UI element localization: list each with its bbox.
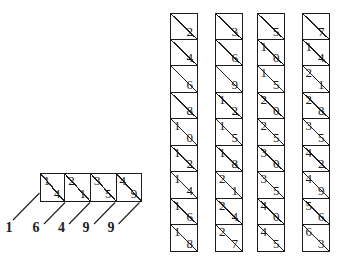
units-digit: 8 (187, 237, 194, 251)
units-digit: 8 (232, 157, 239, 171)
tens-digit: 1 (261, 66, 268, 79)
units-digit: 5 (273, 131, 280, 145)
units-digit: 4 (318, 51, 325, 65)
rod-cell: 6 (215, 40, 243, 67)
units-digit: 2 (187, 157, 194, 171)
tens-digit: 1 (219, 93, 226, 106)
rod-cell: 8 (170, 93, 198, 120)
tens-digit: 4 (306, 146, 313, 159)
rod-cell: 15 (215, 119, 243, 146)
rod-cell: 35 (302, 119, 330, 146)
units-digit: 2 (187, 25, 194, 39)
units-digit: 0 (273, 104, 280, 118)
tens-digit: 2 (219, 225, 226, 238)
tens-digit: 3 (261, 146, 268, 159)
units-digit: 0 (273, 51, 280, 65)
figure-canvas: 14213549 16499 2468101214161836912151821… (0, 0, 342, 263)
units-digit: 1 (318, 78, 325, 92)
units-digit: 2 (232, 104, 239, 118)
napier-rod: 71421283542495663 (302, 13, 330, 252)
tens-digit: 1 (219, 146, 226, 159)
tens-digit: 2 (306, 93, 313, 106)
units-digit: 0 (273, 210, 280, 224)
tens-digit: 1 (174, 146, 181, 159)
units-digit: 4 (232, 210, 239, 224)
rod-cell: 16 (170, 199, 198, 226)
units-digit: 0 (187, 131, 194, 145)
units-digit: 1 (232, 184, 239, 198)
rod-cell: 5 (257, 13, 285, 40)
napier-rod: 24681012141618 (170, 13, 198, 252)
result-digit: 9 (108, 221, 115, 235)
units-digit: 7 (318, 25, 325, 39)
rod-cell: 14 (302, 40, 330, 67)
tens-digit: 1 (174, 172, 181, 185)
units-digit: 8 (187, 104, 194, 118)
rod-cell: 49 (302, 172, 330, 199)
units-digit: 6 (232, 51, 239, 65)
tens-digit: 1 (174, 199, 181, 212)
units-digit: 5 (273, 184, 280, 198)
tens-digit: 6 (306, 225, 313, 238)
rod-cell: 24 (215, 199, 243, 226)
units-digit: 5 (273, 78, 280, 92)
tens-digit: 1 (306, 40, 313, 53)
tens-digit: 2 (306, 66, 313, 79)
rod-cell: 35 (257, 172, 285, 199)
rod-cell: 45 (257, 225, 285, 252)
result-digit: 9 (83, 221, 90, 235)
tens-digit: 4 (261, 225, 268, 238)
result-digit: 4 (58, 221, 65, 235)
rod-cell: 27 (215, 225, 243, 252)
units-digit: 7 (232, 237, 239, 251)
units-digit: 5 (273, 237, 280, 251)
rod-cell: 10 (170, 119, 198, 146)
rod-cell: 25 (257, 119, 285, 146)
units-digit: 9 (232, 78, 239, 92)
result-digit: 6 (33, 221, 40, 235)
units-digit: 6 (318, 210, 325, 224)
tens-digit: 1 (261, 40, 268, 53)
units-digit: 5 (273, 25, 280, 39)
rod-cell: 42 (302, 146, 330, 173)
tens-digit: 5 (306, 199, 313, 212)
tens-digit: 2 (261, 119, 268, 132)
units-digit: 5 (232, 131, 239, 145)
tens-digit: 1 (174, 225, 181, 238)
units-digit: 6 (187, 210, 194, 224)
units-digit: 9 (318, 184, 325, 198)
rod-cell: 10 (257, 40, 285, 67)
napier-rod: 51015202530354045 (257, 13, 285, 252)
tens-digit: 2 (219, 172, 226, 185)
tens-digit: 2 (219, 199, 226, 212)
tens-digit: 3 (306, 119, 313, 132)
rod-cell: 9 (215, 66, 243, 93)
rod-cell: 56 (302, 199, 330, 226)
rod-cell: 40 (257, 199, 285, 226)
units-digit: 5 (318, 131, 325, 145)
rod-cell: 12 (215, 93, 243, 120)
tens-digit: 1 (219, 119, 226, 132)
rod-cell: 28 (302, 93, 330, 120)
napier-rod: 369121518212427 (215, 13, 243, 252)
tens-digit: 4 (306, 172, 313, 185)
units-digit: 3 (232, 25, 239, 39)
result-digit: 1 (6, 221, 13, 235)
tens-digit: 4 (261, 199, 268, 212)
rod-cell: 21 (215, 172, 243, 199)
rod-cell: 18 (170, 225, 198, 252)
rod-cell: 12 (170, 146, 198, 173)
rod-cell: 14 (170, 172, 198, 199)
rod-cell: 2 (170, 13, 198, 40)
units-digit: 4 (187, 51, 194, 65)
rod-cell: 7 (302, 13, 330, 40)
units-digit: 2 (318, 157, 325, 171)
tens-digit: 1 (174, 119, 181, 132)
rod-cell: 15 (257, 66, 285, 93)
units-digit: 0 (273, 157, 280, 171)
tens-digit: 3 (261, 172, 268, 185)
rod-cell: 20 (257, 93, 285, 120)
diagonal-tick (13, 193, 40, 220)
rod-cell: 3 (215, 13, 243, 40)
rod-cell: 6 (170, 66, 198, 93)
